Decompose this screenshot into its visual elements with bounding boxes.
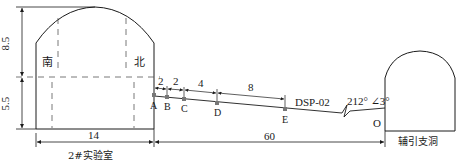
point-c-label: C [181,104,188,114]
point-c-marker [182,97,186,101]
width-label: 14 [88,130,99,141]
point-a-marker [152,93,156,97]
point-e-label: E [282,115,288,125]
spacing-cd-label: 4 [198,78,204,89]
point-d-marker [215,101,219,105]
point-e-marker [283,107,287,111]
point-b-marker [165,95,169,99]
right-tunnel-name: 辅引支洞 [398,137,438,147]
height-upper-label: 8.5 [0,37,11,51]
point-d-label: D [214,108,221,118]
point-a-label: A [150,101,157,111]
height-lower-label: 5.5 [0,97,11,111]
origin-label: O [373,118,381,129]
spacing-bc-label: 2 [173,76,179,87]
orientation-label: 212° ∠3° [347,96,390,107]
borehole-name-label: DSP-02 [295,97,330,108]
left-chamber-dashed-lines [16,18,160,128]
layout-diagram [0,0,465,166]
left-chamber-name: 2#实验室 [68,151,113,161]
north-label: 北 [134,57,145,68]
point-b-label: B [164,102,171,112]
south-label: 南 [42,57,53,68]
spacing-de-label: 8 [248,82,254,93]
right-tunnel-outline [385,51,455,131]
spacing-ab-label: 2 [158,76,164,87]
length-label: 60 [264,131,275,142]
